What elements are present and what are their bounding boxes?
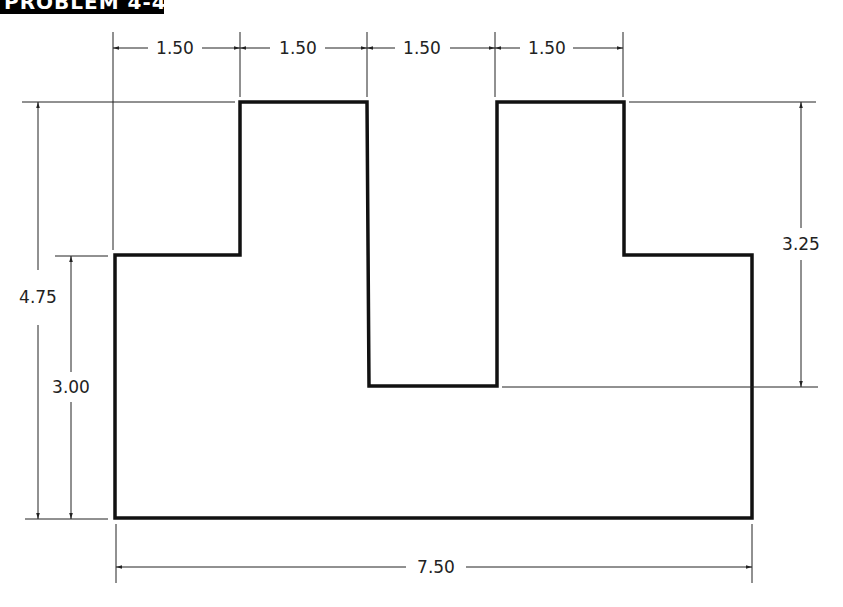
dim-top-3: 1.50	[403, 38, 441, 58]
part-outline	[115, 102, 752, 518]
right-extension-lines	[502, 102, 818, 387]
dim-overall-height: 4.75	[19, 287, 57, 307]
dim-step-height: 3.00	[52, 377, 90, 397]
dim-top-4: 1.50	[528, 38, 566, 58]
dim-top-1: 1.50	[156, 38, 194, 58]
dim-overall-width: 7.50	[417, 557, 455, 577]
dim-top-2: 1.50	[279, 38, 317, 58]
technical-drawing: 1.50 1.50 1.50 1.50 4.75 3.00 3.25 7.50	[0, 0, 843, 607]
dim-slot-depth: 3.25	[782, 234, 820, 254]
left-extension-lines	[22, 102, 235, 519]
